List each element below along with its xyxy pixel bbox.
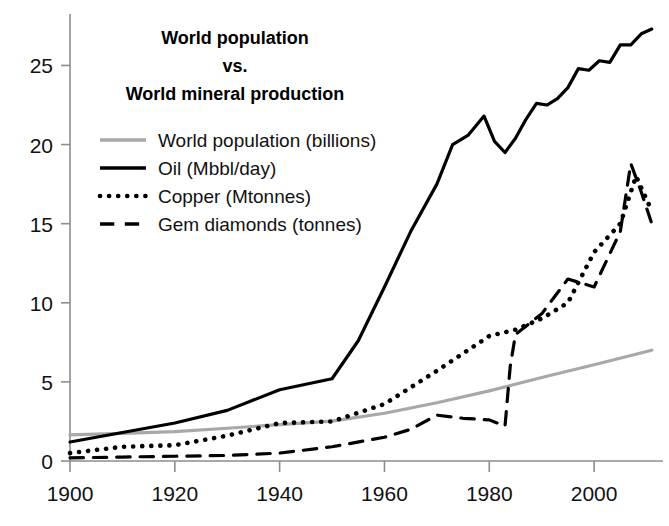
title-line-3: World mineral production bbox=[126, 84, 345, 104]
y-tick-label: 0 bbox=[41, 450, 53, 473]
legend-label: World population (billions) bbox=[158, 130, 376, 151]
y-axis-ticks: 0510152025 bbox=[30, 54, 70, 473]
y-tick-label: 25 bbox=[30, 54, 53, 77]
title-line-1: World population bbox=[161, 28, 309, 48]
legend-label: Gem diamonds (tonnes) bbox=[158, 214, 362, 235]
y-tick-label: 5 bbox=[41, 371, 53, 394]
axes-group bbox=[70, 14, 663, 461]
series-line bbox=[70, 350, 652, 435]
y-tick-label: 20 bbox=[30, 134, 53, 157]
x-tick-label: 1940 bbox=[256, 482, 303, 505]
chart-canvas: 0510152025 190019201940196019802000 Worl… bbox=[0, 0, 669, 526]
chart-title: World population vs. World mineral produ… bbox=[126, 28, 345, 104]
x-tick-label: 2000 bbox=[571, 482, 618, 505]
chart-legend: World population (billions)Oil (Mbbl/day… bbox=[100, 130, 376, 235]
chart-figure: 0510152025 190019201940196019802000 Worl… bbox=[0, 0, 669, 526]
x-tick-label: 1960 bbox=[361, 482, 408, 505]
title-line-2: vs. bbox=[222, 56, 247, 76]
legend-label: Oil (Mbbl/day) bbox=[158, 158, 276, 179]
y-tick-label: 15 bbox=[30, 213, 53, 236]
x-axis-ticks: 190019201940196019802000 bbox=[47, 461, 618, 505]
x-tick-label: 1980 bbox=[466, 482, 513, 505]
legend-label: Copper (Mtonnes) bbox=[158, 186, 311, 207]
x-tick-label: 1900 bbox=[47, 482, 94, 505]
y-tick-label: 10 bbox=[30, 292, 53, 315]
x-tick-label: 1920 bbox=[151, 482, 198, 505]
series-line bbox=[70, 164, 652, 458]
